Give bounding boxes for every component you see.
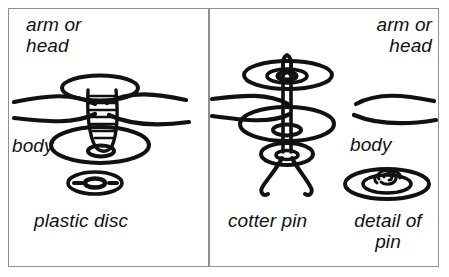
upper-disc-hole [278,72,296,80]
right-panel-artwork [212,55,436,199]
plastic-disc-hole [85,179,105,188]
label-arm-or-head-right: arm or head [340,14,432,56]
washer-disc [261,143,313,165]
label-cotter-pin: cotter pin [228,210,307,231]
shank-ribs [89,96,117,138]
washer-disc-hole [276,151,298,160]
label-body-left: body [12,135,54,156]
arm-head-wires-right [212,96,436,124]
label-arm-or-head-left: arm or head [26,14,82,56]
diagram-figure: arm or head body plastic disc arm or hea… [0,0,449,277]
upper-disc-right [244,61,332,89]
label-detail-of-pin: detail of pin [342,210,434,252]
lower-disc-right-hole [273,125,301,136]
label-plastic-disc: plastic disc [34,210,128,231]
pin-detail-coil [375,171,400,184]
label-body-right: body [350,134,392,155]
